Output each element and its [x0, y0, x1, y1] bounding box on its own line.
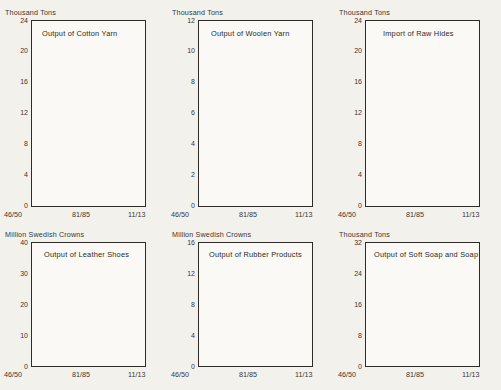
chart-panel-soft-soap-and-soap: Thousand Tons 32 24 16 8 0: [334, 228, 501, 390]
plot-frame: [31, 242, 146, 367]
panel-title: Output of Cotton Yarn: [42, 29, 117, 38]
y-tick-label: 0: [340, 363, 362, 370]
y-tick-label: 30: [6, 270, 28, 277]
x-tick-label: 11/13: [295, 370, 312, 379]
y-tick-label: 0: [173, 202, 195, 209]
y-tick-label: 4: [340, 171, 362, 178]
y-tick-label: 40: [6, 239, 28, 246]
plot-area: [365, 242, 480, 367]
x-tick-label: 81/85: [239, 210, 257, 219]
y-tick-label: 24: [340, 17, 362, 24]
plot-frame: [198, 242, 313, 367]
y-tick-label: 20: [340, 47, 362, 54]
y-tick-label: 0: [173, 363, 195, 370]
plot-frame: [31, 20, 146, 207]
unit-label: Thousand Tons: [172, 8, 223, 17]
y-tick-label: 16: [340, 78, 362, 85]
unit-label: Thousand Tons: [5, 8, 56, 17]
plot-frame: [365, 242, 480, 367]
panel-title: Import of Raw Hides: [383, 29, 454, 38]
figure-sheet: Thousand Tons 24 20 16 12 8 4 0: [0, 0, 501, 390]
plot-frame: [365, 20, 480, 207]
chart-panel-rubber-products: Million Swedish Crowns 16 12 8 4 0: [167, 228, 334, 390]
unit-label: Thousand Tons: [339, 8, 390, 17]
y-tick-label: 4: [173, 140, 195, 147]
y-tick-label: 8: [173, 301, 195, 308]
y-tick-label: 0: [340, 202, 362, 209]
plot-frame: [198, 20, 313, 207]
x-tick-label: 46/50: [338, 210, 356, 219]
x-tick-label: 81/85: [239, 370, 257, 379]
y-tick-label: 10: [173, 47, 195, 54]
y-tick-label: 0: [6, 202, 28, 209]
y-tick-label: 32: [340, 239, 362, 246]
x-tick-label: 46/50: [171, 210, 189, 219]
y-tick-label: 8: [340, 332, 362, 339]
x-tick-label: 81/85: [72, 370, 90, 379]
y-tick-label: 12: [340, 109, 362, 116]
y-tick-label: 16: [340, 301, 362, 308]
y-tick-label: 12: [173, 17, 195, 24]
chart-panel-woolen-yarn: Thousand Tons 12 10 8 6 4 2 0: [167, 0, 334, 228]
unit-label: Thousand Tons: [339, 230, 390, 239]
y-tick-label: 12: [173, 270, 195, 277]
y-tick-label: 12: [6, 109, 28, 116]
panel-title: Output of Leather Shoes: [44, 250, 129, 259]
y-tick-label: 4: [173, 332, 195, 339]
plot-area: [31, 242, 146, 367]
y-tick-label: 6: [173, 109, 195, 116]
y-tick-label: 8: [340, 140, 362, 147]
x-tick-label: 11/13: [128, 210, 145, 219]
y-tick-label: 16: [6, 78, 28, 85]
chart-panel-leather-shoes: Million Swedish Crowns 40 30 20 10 0: [0, 228, 167, 390]
x-tick-label: 81/85: [406, 210, 424, 219]
unit-label: Million Swedish Crowns: [5, 230, 84, 239]
plot-area: [365, 20, 480, 207]
panel-title: Output of Woolen Yarn: [211, 29, 290, 38]
y-tick-label: 16: [173, 239, 195, 246]
unit-label: Million Swedish Crowns: [172, 230, 251, 239]
y-tick-label: 8: [173, 78, 195, 85]
x-tick-label: 46/50: [4, 370, 22, 379]
panel-title: Output of Soft Soap and Soap: [374, 250, 478, 259]
plot-area: [31, 20, 146, 207]
y-tick-label: 20: [6, 47, 28, 54]
y-tick-label: 10: [6, 332, 28, 339]
chart-panel-cotton-yarn: Thousand Tons 24 20 16 12 8 4 0: [0, 0, 167, 228]
x-tick-label: 81/85: [72, 210, 90, 219]
y-tick-label: 8: [6, 140, 28, 147]
y-tick-label: 4: [6, 171, 28, 178]
y-tick-label: 24: [6, 17, 28, 24]
y-tick-label: 2: [173, 171, 195, 178]
x-tick-label: 81/85: [406, 370, 424, 379]
plot-area: [198, 20, 313, 207]
x-tick-label: 11/13: [295, 210, 312, 219]
x-tick-label: 11/13: [128, 370, 145, 379]
x-tick-label: 11/13: [462, 370, 479, 379]
y-tick-label: 0: [6, 363, 28, 370]
x-tick-label: 11/13: [462, 210, 479, 219]
chart-panel-raw-hides: Thousand Tons 24 20 16 12 8 4 0: [334, 0, 501, 228]
x-tick-label: 46/50: [4, 210, 22, 219]
x-tick-label: 46/50: [338, 370, 356, 379]
panel-title: Output of Rubber Products: [209, 250, 302, 259]
x-tick-label: 46/50: [171, 370, 189, 379]
y-tick-label: 20: [6, 301, 28, 308]
plot-area: [198, 242, 313, 367]
y-tick-label: 24: [340, 270, 362, 277]
